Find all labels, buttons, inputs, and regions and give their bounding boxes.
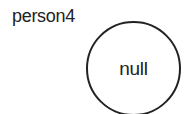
variable-label: person4 xyxy=(12,5,75,27)
node-value: null xyxy=(119,58,147,80)
null-node-circle: null xyxy=(86,21,181,114)
